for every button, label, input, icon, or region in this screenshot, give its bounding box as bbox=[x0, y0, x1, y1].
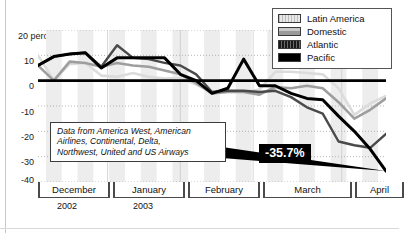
data-source-note: Data from America West, American Airline… bbox=[50, 122, 226, 162]
y-tick-minus-30: -30 bbox=[4, 157, 34, 167]
month-box-march: March bbox=[263, 182, 352, 198]
month-box-january: January bbox=[113, 182, 185, 198]
legend-item-latin-america[interactable]: Latin America bbox=[278, 12, 386, 25]
month-box-april: April bbox=[355, 182, 404, 198]
month-label: January bbox=[132, 184, 166, 195]
y-tick-minus-10: -10 bbox=[4, 107, 34, 117]
bottom-border-rule bbox=[0, 228, 399, 229]
y-tick-10: 10 bbox=[4, 56, 34, 66]
note-line-3: Northwest, United and US Airways bbox=[57, 147, 220, 157]
y-tick-minus-40: -40 bbox=[4, 175, 34, 185]
month-label: March bbox=[294, 184, 320, 195]
month-box-february: February bbox=[188, 182, 260, 198]
pacific-low-callout: -35.7% bbox=[259, 144, 311, 163]
legend-item-pacific[interactable]: Pacific bbox=[278, 51, 386, 64]
legend-label: Pacific bbox=[307, 52, 335, 63]
x-axis-month-bar: December January February March April bbox=[38, 182, 386, 198]
legend-item-domestic[interactable]: Domestic bbox=[278, 25, 386, 38]
month-box-december: December bbox=[38, 182, 110, 198]
legend-label: Domestic bbox=[307, 26, 347, 37]
pacific-swatch-icon bbox=[278, 53, 301, 62]
year-label-2003: 2003 bbox=[133, 201, 153, 211]
month-label: December bbox=[52, 184, 96, 195]
legend-item-atlantic[interactable]: Atlantic bbox=[278, 38, 386, 51]
domestic-swatch-icon bbox=[278, 27, 301, 36]
legend-label: Atlantic bbox=[307, 39, 338, 50]
month-label: April bbox=[370, 184, 389, 195]
y-tick-minus-20: -20 bbox=[4, 132, 34, 142]
atlantic-swatch-icon bbox=[278, 40, 301, 49]
year-label-2002: 2002 bbox=[57, 201, 77, 211]
note-line-1: Data from America West, American bbox=[57, 126, 220, 136]
legend: Latin America Domestic Atlantic Pacific bbox=[272, 8, 392, 69]
latin-america-swatch-icon bbox=[278, 14, 301, 23]
y-tick-0: 0 bbox=[4, 81, 34, 91]
note-line-2: Airlines, Continental, Delta, bbox=[57, 136, 220, 146]
month-label: February bbox=[205, 184, 243, 195]
legend-label: Latin America bbox=[307, 13, 365, 24]
